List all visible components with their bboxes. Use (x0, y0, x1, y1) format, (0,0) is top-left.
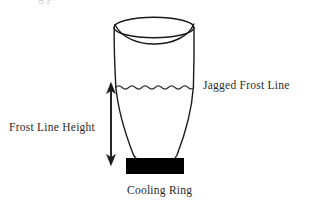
bubble-rim-front-arc (115, 24, 194, 44)
bubble-top-rim-ellipse (114, 17, 194, 37)
double-headed-arrow-icon (107, 83, 116, 166)
blown-film-bubble-diagram (0, 0, 309, 206)
cooling-ring-label: Cooling Ring (127, 185, 192, 197)
bubble-left-wall (114, 28, 136, 160)
jagged-frost-line-label: Jagged Frost Line (203, 80, 290, 92)
wavy-frost-line-icon (116, 86, 194, 89)
figure-canvas: g p Jagged Frost Line Frost Line Height … (0, 0, 309, 206)
cooling-ring-shape (126, 158, 184, 174)
bubble-right-wall (175, 28, 195, 160)
frost-line-height-label: Frost Line Height (9, 122, 95, 134)
